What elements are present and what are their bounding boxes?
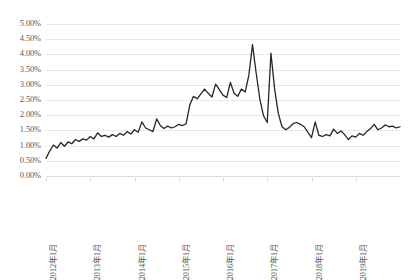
data-series-line (46, 24, 400, 176)
y-axis: 0.00%0.50%1.00%1.50%2.00%2.50%3.00%3.50%… (0, 0, 44, 247)
x-tick-mark (267, 178, 268, 181)
y-tick-label: 4.00% (20, 50, 41, 58)
plot-area (46, 24, 400, 176)
x-tick-label: 2017年1月 (271, 244, 279, 280)
gridline (46, 176, 400, 177)
y-tick-label: 0.50% (20, 157, 41, 165)
x-tick-label: 2018年1月 (316, 244, 324, 280)
y-tick-label: 1.50% (20, 126, 41, 134)
x-tick-mark (223, 178, 224, 181)
x-tick-label: 2016年1月 (227, 244, 235, 280)
x-tick-mark (179, 178, 180, 181)
y-tick-label: 4.50% (20, 35, 41, 43)
x-tick-mark (90, 178, 91, 181)
x-tick-label: 2012年1月 (50, 244, 58, 280)
y-tick-label: 5.00% (20, 20, 41, 28)
x-tick-mark (46, 178, 47, 181)
y-tick-label: 3.00% (20, 81, 41, 89)
y-tick-label: 3.50% (20, 65, 41, 73)
y-tick-label: 0.00% (20, 172, 41, 180)
x-tick-label: 2019年1月 (360, 244, 368, 280)
x-tick-mark (312, 178, 313, 181)
series-polyline (46, 45, 400, 159)
y-tick-label: 1.00% (20, 141, 41, 149)
x-tick-label: 2014年1月 (139, 244, 147, 280)
y-tick-label: 2.50% (20, 96, 41, 104)
x-tick-mark (356, 178, 357, 181)
y-tick-label: 2.00% (20, 111, 41, 119)
x-axis: 2012年1月2013年1月2014年1月2015年1月2016年1月2017年… (46, 178, 400, 247)
x-tick-label: 2015年1月 (183, 244, 191, 280)
x-tick-label: 2013年1月 (94, 244, 102, 280)
x-tick-mark (135, 178, 136, 181)
